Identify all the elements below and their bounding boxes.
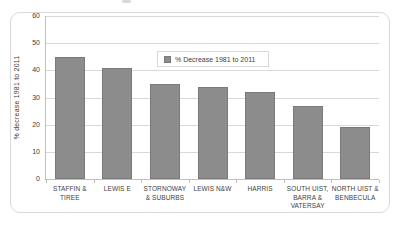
y-axis-line [45,16,46,180]
gridline-40 [46,70,379,71]
x-tick-mark [94,180,95,183]
gridline-60 [46,16,379,17]
legend-series-label: % Decrease 1981 to 2011 [175,56,255,63]
x-tick-mark [284,180,285,183]
x-category-label: STORNOWAY & SUBURBS [139,185,191,202]
bar-6 [293,106,323,179]
bar-2 [102,68,132,179]
x-axis-line [45,179,379,180]
x-category-label: LEWIS N&W [187,185,239,194]
y-tick-label: 60 [18,12,40,20]
y-tick-label: 50 [18,39,40,47]
x-tick-mark [46,180,47,183]
chart-canvas: % decrease 1981 to 2011 0102030405060STA… [0,0,401,226]
y-tick-label: 20 [18,121,40,129]
x-category-label: STAFFIN & TIREE [44,185,96,202]
y-tick-label: 40 [18,66,40,74]
bar-3 [150,84,180,179]
cropped-edge-artifact [122,0,131,3]
x-category-label: LEWIS E [91,185,143,194]
y-tick-label: 10 [18,148,40,156]
y-tick-label: 30 [18,94,40,102]
bar-7 [340,127,370,179]
x-category-label: HARRIS [234,185,286,194]
bar-1 [55,57,85,179]
x-tick-mark [331,180,332,183]
legend-series-marker-icon [164,56,171,63]
legend: % Decrease 1981 to 2011 [157,51,269,67]
x-tick-mark [236,180,237,183]
y-tick-label: 0 [18,175,40,183]
x-tick-mark [189,180,190,183]
bar-5 [245,92,275,179]
x-category-label: SOUTH UIST, BARRA & VATERSAY [282,185,334,211]
x-tick-mark [379,180,380,183]
bar-4 [198,87,228,179]
x-category-label: NORTH UIST & BENBECULA [329,185,381,202]
gridline-50 [46,43,379,44]
x-tick-mark [141,180,142,183]
